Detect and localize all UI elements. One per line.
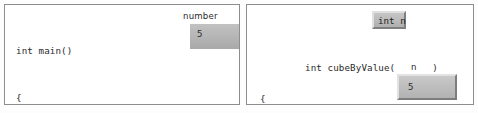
variable-label-n: n xyxy=(411,62,417,72)
parameter-highlight-box: int n xyxy=(372,11,406,29)
signature-prefix: int cubeByValue( xyxy=(305,62,395,73)
variable-value-n: 5 xyxy=(408,82,413,92)
variable-value-box-n: 5 xyxy=(397,74,457,100)
call-by-value-figure: int main() { int number = 5; number = cu… xyxy=(0,0,478,113)
signature-suffix: ) xyxy=(432,62,438,73)
variable-label-number: number xyxy=(183,11,218,21)
code-line: { xyxy=(16,90,207,106)
main-function-panel: int main() { int number = 5; number = cu… xyxy=(4,4,240,105)
code-line-signature: int cubeByValue() xyxy=(260,44,438,60)
cubebyvalue-function-panel: int cubeByValue() { return n * n * n; } … xyxy=(246,4,474,105)
code-line: int main() xyxy=(16,43,207,59)
variable-value-number: 5 xyxy=(197,29,202,39)
parameter-highlight-text: int n xyxy=(378,15,406,26)
variable-value-box-number: 5 xyxy=(190,24,240,49)
main-code-block: int main() { int number = 5; number = cu… xyxy=(16,12,207,105)
